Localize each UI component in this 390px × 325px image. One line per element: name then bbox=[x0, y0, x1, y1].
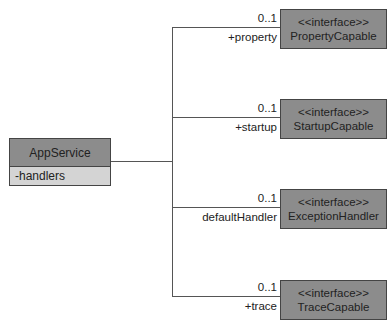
stereotype-label: <<interface>> bbox=[281, 105, 386, 119]
interface-tracecapable[interactable]: <<interface>> TraceCapable bbox=[280, 280, 387, 320]
interface-exceptionhandler[interactable]: <<interface>> ExceptionHandler bbox=[280, 189, 387, 229]
stereotype-label: <<interface>> bbox=[281, 286, 386, 300]
role-trace: +trace bbox=[245, 300, 277, 312]
stereotype-label: <<interface>> bbox=[281, 15, 386, 29]
connector-branch-exception bbox=[172, 207, 280, 208]
interface-name: TraceCapable bbox=[281, 300, 386, 314]
interface-name: PropertyCapable bbox=[281, 29, 386, 43]
stereotype-label: <<interface>> bbox=[281, 195, 386, 209]
interface-name: ExceptionHandler bbox=[281, 209, 386, 223]
class-appservice[interactable]: AppService -handlers bbox=[9, 138, 111, 186]
class-attribute: -handlers bbox=[10, 166, 110, 185]
multiplicity-exception: 0..1 bbox=[258, 192, 277, 204]
class-name: AppService bbox=[10, 139, 110, 166]
connector-branch-property bbox=[172, 27, 280, 28]
role-property: +property bbox=[228, 31, 277, 43]
multiplicity-trace: 0..1 bbox=[258, 281, 277, 293]
multiplicity-startup: 0..1 bbox=[258, 102, 277, 114]
connector-trunk bbox=[172, 27, 173, 297]
role-startup: +startup bbox=[235, 121, 277, 133]
interface-startupcapable[interactable]: <<interface>> StartupCapable bbox=[280, 99, 387, 139]
connector-branch-startup bbox=[172, 117, 280, 118]
multiplicity-property: 0..1 bbox=[258, 12, 277, 24]
interface-name: StartupCapable bbox=[281, 119, 386, 133]
connector-main bbox=[110, 161, 172, 162]
connector-branch-trace bbox=[172, 296, 280, 297]
role-exception: defaultHandler bbox=[202, 211, 277, 223]
interface-propertycapable[interactable]: <<interface>> PropertyCapable bbox=[280, 9, 387, 49]
